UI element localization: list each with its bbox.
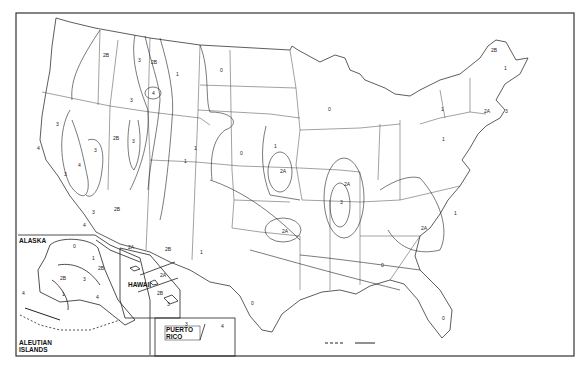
zone-label-ga-0: 0	[381, 263, 384, 268]
zone-label-nv-2b: 2B	[113, 136, 119, 141]
zone-label-ks-2a: 2A	[280, 169, 286, 174]
zone-label-fl-0: 0	[442, 316, 445, 321]
zone-label-mt-1: 1	[176, 72, 179, 77]
zone-label-mt-4: 4	[152, 91, 155, 96]
zone-label-ks-0: 0	[240, 151, 243, 156]
zone-label-ca-3: 3	[64, 172, 67, 177]
seismic-zone-map: 2B32B14332B33443342B112A2B10012A2A002A31…	[0, 0, 579, 367]
zone-label-me-1: 1	[504, 66, 507, 71]
zone-label-ak-4: 4	[96, 295, 99, 300]
zone-label-ca-4b: 4	[83, 223, 86, 228]
zone-label-oh-1: 1	[442, 137, 445, 142]
zone-label-az-2b: 2B	[114, 207, 120, 212]
zone-label-hi-3: 3	[167, 302, 170, 307]
zone-label-ut-3: 3	[132, 139, 135, 144]
zone-label-nm-1: 1	[200, 250, 203, 255]
zone-label-nd-0: 0	[220, 68, 223, 73]
zone-label-ak-2b: 2B	[98, 266, 104, 271]
zone-label-ne-1: 1	[274, 144, 277, 149]
puerto-rico-inset-title: PUERTO RICO	[166, 327, 194, 341]
zone-label-wa-2b: 2B	[103, 53, 109, 58]
zone-label-hi-2a: 2A	[160, 273, 166, 278]
zone-label-me-2b: 2B	[491, 48, 497, 53]
zone-label-az-2a: 2A	[128, 245, 134, 250]
zone-label-tx-0: 0	[251, 301, 254, 306]
zone-label-nm-3: 3	[340, 200, 343, 205]
zone-label-ok-2a: 2A	[282, 229, 288, 234]
us-outline	[40, 18, 528, 338]
zone-contours	[62, 30, 444, 290]
zone-label-ak-1: 1	[92, 256, 95, 261]
zone-label-ak-4b: 4	[22, 291, 25, 296]
zone-label-ak-2b2: 2B	[60, 276, 66, 281]
hawaii-inset-title: HAWAII	[128, 282, 151, 289]
alaska-inset-title: ALASKA	[19, 238, 46, 245]
zone-label-ca-4a: 4	[37, 146, 40, 151]
zone-label-ma-3: 3	[505, 109, 508, 114]
zone-label-ca-4: 4	[78, 163, 81, 168]
state-boundaries	[42, 30, 486, 290]
zone-label-pr-4: 4	[221, 324, 224, 329]
zone-label-nc-1: 1	[454, 211, 457, 216]
zone-label-hi-2b: 2B	[157, 291, 163, 296]
zone-label-or-3: 3	[56, 122, 59, 127]
zone-label-wi-0: 0	[328, 107, 331, 112]
aleutian-inset-title: ALEUTIAN ISLANDS	[19, 340, 57, 354]
zone-label-ak-0: 0	[73, 244, 76, 249]
zone-label-ma-2a: 2A	[484, 109, 490, 114]
zone-label-sc-2a: 2A	[421, 226, 427, 231]
zone-label-ak-3: 3	[83, 277, 86, 282]
map-outline-svg	[0, 0, 579, 367]
zone-label-id-3b: 3	[130, 98, 133, 103]
zone-label-nm-2b: 2B	[165, 247, 171, 252]
zone-label-mt-2b: 2B	[151, 60, 157, 65]
zone-label-ca-3a: 3	[94, 148, 97, 153]
zone-label-co-1: 1	[184, 159, 187, 164]
zone-label-ca-3c: 3	[92, 210, 95, 215]
zone-label-id-3: 3	[138, 58, 141, 63]
zone-label-wy-1: 1	[194, 146, 197, 151]
zone-label-ny-1: 1	[441, 107, 444, 112]
zone-label-ak-1b: 1	[62, 292, 65, 297]
zone-label-il-2a: 2A	[344, 182, 350, 187]
